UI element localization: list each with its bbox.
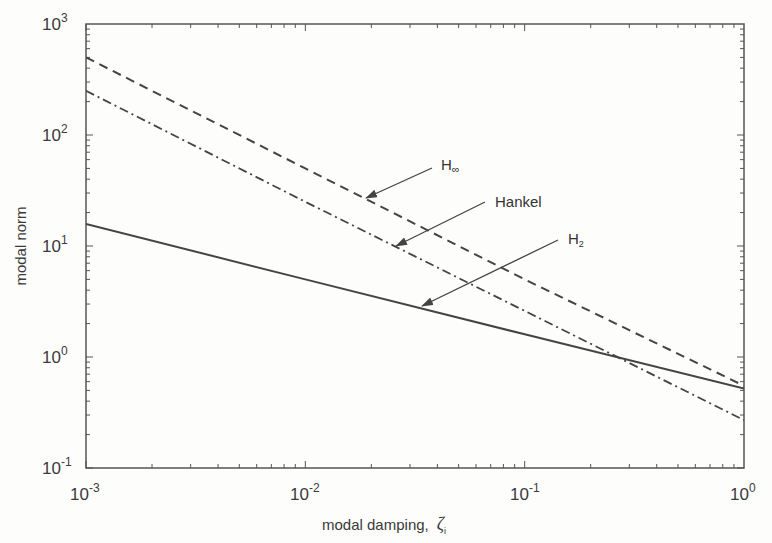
ytick-label: 101	[42, 233, 68, 256]
x-axis-label: modal damping,ζi	[322, 514, 446, 536]
x-tick-labels: 10-3 10-2 10-1 100	[70, 481, 756, 504]
xtick-label: 10-1	[510, 481, 540, 504]
hankel-arrow-icon	[396, 202, 485, 246]
series-hankel-line	[86, 91, 744, 420]
ytick-label: 102	[42, 122, 68, 145]
h2-arrow-icon	[422, 240, 558, 306]
h2-label: H2	[568, 230, 584, 249]
ytick-label: 103	[42, 11, 68, 34]
plot-area	[86, 24, 744, 468]
y-tick-labels: 103 102 101 100 10-1	[42, 11, 72, 478]
axis-ticks	[86, 24, 744, 468]
hankel-label: Hankel	[495, 193, 542, 210]
chart: H∞ Hankel H2 103 102 101 100 10-1 10-3 1…	[0, 0, 772, 543]
xtick-label: 10-2	[290, 481, 320, 504]
xtick-label: 100	[730, 481, 756, 504]
hinf-label: H∞	[441, 156, 460, 175]
series-h2-line	[86, 224, 744, 389]
xtick-label: 10-3	[70, 481, 100, 504]
y-axis-label: modal norm	[12, 206, 29, 285]
hinf-arrow-icon	[366, 168, 432, 198]
ytick-label: 100	[42, 344, 68, 367]
series-hinf-line	[86, 57, 744, 385]
ytick-label: 10-1	[42, 455, 72, 478]
